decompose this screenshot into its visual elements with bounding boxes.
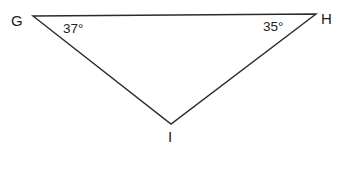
vertex-label-g: G xyxy=(11,12,23,29)
angle-label-h: 35° xyxy=(263,19,283,34)
vertex-label-i: I xyxy=(168,128,172,145)
vertex-label-h: H xyxy=(321,10,332,27)
angle-label-g: 37° xyxy=(63,21,83,36)
triangle-diagram: G H I 37° 35° xyxy=(0,0,339,195)
